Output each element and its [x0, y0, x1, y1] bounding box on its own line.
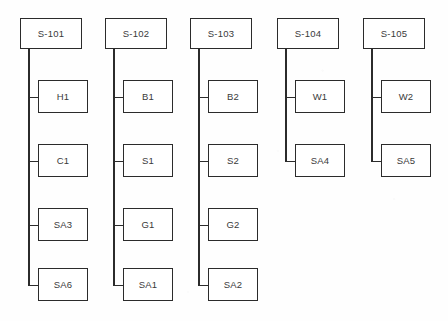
- child-node-w2[interactable]: W2: [381, 80, 431, 113]
- root-node-s-105[interactable]: S-105: [363, 18, 425, 49]
- child-node-s2[interactable]: S2: [208, 144, 258, 177]
- child-node-b2[interactable]: B2: [208, 80, 258, 113]
- child-node-h1[interactable]: H1: [38, 80, 88, 113]
- root-node-s-104[interactable]: S-104: [277, 18, 339, 49]
- child-node-sa3[interactable]: SA3: [38, 208, 88, 241]
- child-node-sa5[interactable]: SA5: [381, 144, 431, 177]
- child-node-w1[interactable]: W1: [295, 80, 345, 113]
- child-node-sa4[interactable]: SA4: [295, 144, 345, 177]
- diagram-canvas: S-101H1C1SA3SA6S-102B1S1G1SA1S-103B2S2G2…: [0, 0, 448, 321]
- trunk-line: [371, 49, 373, 162]
- child-node-c1[interactable]: C1: [38, 144, 88, 177]
- child-node-b1[interactable]: B1: [123, 80, 173, 113]
- child-node-g2[interactable]: G2: [208, 208, 258, 241]
- trunk-line: [113, 49, 115, 286]
- trunk-line: [285, 49, 287, 162]
- root-node-s-102[interactable]: S-102: [105, 18, 167, 49]
- trunk-line: [28, 49, 30, 286]
- child-node-sa6[interactable]: SA6: [38, 268, 88, 301]
- child-node-sa1[interactable]: SA1: [123, 268, 173, 301]
- root-node-s-101[interactable]: S-101: [20, 18, 82, 49]
- child-node-sa2[interactable]: SA2: [208, 268, 258, 301]
- child-node-g1[interactable]: G1: [123, 208, 173, 241]
- root-node-s-103[interactable]: S-103: [190, 18, 252, 49]
- child-node-s1[interactable]: S1: [123, 144, 173, 177]
- trunk-line: [198, 49, 200, 286]
